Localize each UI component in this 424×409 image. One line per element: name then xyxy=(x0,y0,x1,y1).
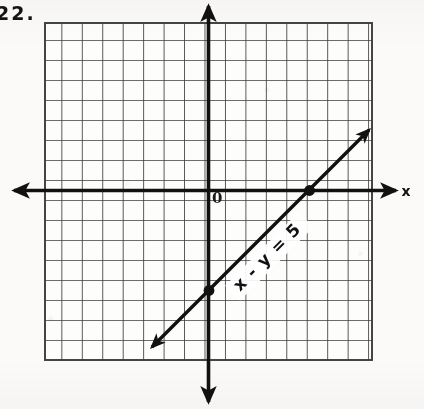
plotted-point-y-intercept xyxy=(204,285,215,296)
origin-label: 0 xyxy=(212,189,222,207)
graph-figure: 0 x x - y = 5 xyxy=(0,0,424,409)
x-axis-label: x xyxy=(401,183,410,199)
plotted-point-x-intercept xyxy=(304,185,315,196)
scanned-worksheet-page: 22. xyxy=(0,0,424,409)
coordinate-plane-svg: 0 x x - y = 5 xyxy=(0,0,424,409)
